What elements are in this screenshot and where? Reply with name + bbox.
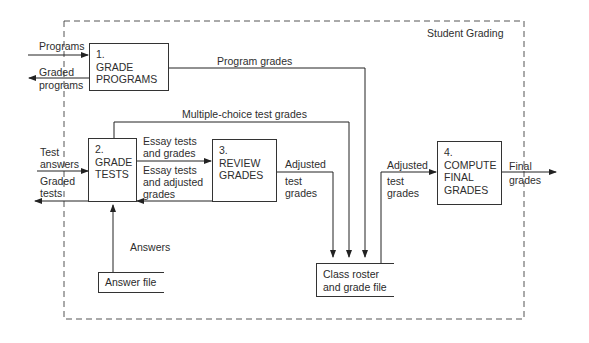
label-adjusted-b-2: test	[387, 175, 404, 188]
label-final-grades: Final	[509, 160, 532, 173]
process-label: COMPUTE	[444, 159, 495, 172]
process-review-grades: 3. REVIEW GRADES	[212, 139, 277, 202]
label-graded-tests: Graded	[40, 175, 75, 188]
label-adjusted-a: Adjusted	[285, 158, 326, 171]
label-essay-grades-2: and grades	[143, 147, 196, 160]
process-label: GRADES	[444, 184, 495, 197]
store-label: and grade file	[323, 281, 388, 294]
process-label: GRADE	[95, 156, 130, 169]
boundary-label: Student Grading	[427, 27, 503, 40]
label-multiple-choice: Multiple-choice test grades	[182, 108, 307, 121]
label-adjusted-b-3: grades	[387, 187, 419, 200]
store-class-roster: Class roster and grade file	[316, 263, 394, 297]
label-graded-tests-2: tests	[40, 187, 62, 200]
label-essay-adjusted-2: and adjusted	[143, 176, 203, 189]
label-essay-grades: Essay tests	[143, 135, 197, 148]
process-number: 3.	[219, 144, 270, 157]
label-final-grades-2: grades	[509, 174, 541, 187]
label-program-grades: Program grades	[217, 55, 292, 68]
label-adjusted-b: Adjusted	[387, 159, 428, 172]
process-grade-tests: 2. GRADE TESTS	[88, 138, 137, 202]
process-label: FINAL	[444, 171, 495, 184]
label-graded-programs: Graded	[39, 66, 74, 79]
process-compute-final-grades: 4. COMPUTE FINAL GRADES	[437, 141, 502, 205]
label-graded-programs-2: programs	[39, 79, 83, 92]
label-essay-adjusted-3: grades	[143, 188, 175, 201]
process-label: REVIEW	[219, 157, 270, 170]
label-adjusted-a-3: grades	[285, 187, 317, 200]
store-label: Class roster	[323, 268, 388, 281]
label-test-answers-2: answers	[40, 158, 79, 171]
store-label: Answer file	[105, 276, 158, 289]
process-label: TESTS	[95, 168, 130, 181]
label-test-answers: Test	[40, 146, 59, 159]
process-label: PROGRAMS	[96, 73, 162, 86]
process-label: GRADE	[96, 61, 162, 74]
label-adjusted-a-2: test	[285, 175, 302, 188]
process-number: 1.	[96, 48, 162, 61]
process-number: 4.	[444, 146, 495, 159]
process-number: 2.	[95, 143, 130, 156]
process-label: GRADES	[219, 169, 270, 182]
label-answers: Answers	[130, 241, 170, 254]
label-programs: Programs	[39, 40, 85, 53]
process-grade-programs: 1. GRADE PROGRAMS	[89, 43, 169, 91]
store-answer-file: Answer file	[98, 272, 164, 293]
label-essay-adjusted: Essay tests	[143, 164, 197, 177]
